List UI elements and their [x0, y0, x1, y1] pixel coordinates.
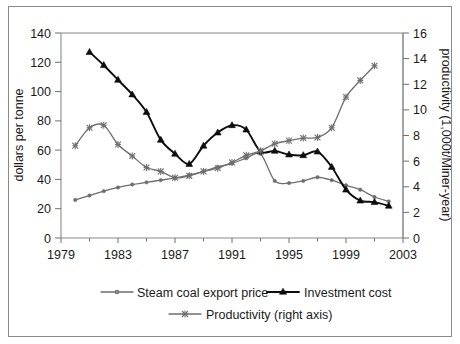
legend-label-steam-coal-export-price: Steam coal export price: [137, 286, 268, 300]
right-tick-label-4: 4: [413, 180, 420, 194]
left-tick-label-140: 140: [30, 27, 51, 41]
data-point: [330, 178, 333, 181]
chart-frame: 0 20 40 60 80 100 120 140 dollars per to…: [8, 6, 452, 337]
data-point: [357, 77, 363, 84]
right-tick-label-14: 14: [413, 52, 427, 66]
left-tick-label-0: 0: [44, 232, 51, 246]
legend-item-investment-cost[interactable]: Investment cost: [267, 286, 392, 300]
right-tick-label-16: 16: [413, 27, 427, 41]
data-point: [287, 181, 290, 184]
left-tick-label-80: 80: [37, 114, 51, 128]
left-tick-label-40: 40: [37, 173, 51, 187]
chart-figure: 0 20 40 60 80 100 120 140 dollars per to…: [0, 0, 460, 344]
data-point: [359, 188, 362, 191]
left-tick-label-20: 20: [37, 202, 51, 216]
data-point: [316, 176, 319, 179]
data-point: [86, 48, 93, 54]
data-point: [115, 141, 121, 148]
chart-legend: Steam coal export price Investment cost: [101, 286, 392, 322]
data-point: [144, 164, 150, 171]
data-point: [258, 147, 264, 154]
data-point: [300, 135, 306, 142]
data-point: [229, 159, 235, 166]
x-tick-label-1987: 1987: [161, 248, 189, 262]
left-tick-label-100: 100: [30, 85, 51, 99]
data-point: [116, 186, 119, 189]
legend-label-investment-cost: Investment cost: [304, 286, 392, 300]
data-point: [302, 179, 305, 182]
right-tick-label-8: 8: [413, 129, 420, 143]
x-tick-label-1991: 1991: [218, 248, 246, 262]
data-point: [172, 174, 178, 181]
x-tick-label-1979: 1979: [47, 248, 75, 262]
right-tick-label-10: 10: [413, 103, 427, 117]
data-point: [101, 122, 107, 129]
star-icon: [182, 311, 188, 318]
right-axis-title: productivity (1,000t/Miner-year): [439, 49, 451, 222]
data-point: [87, 124, 93, 131]
data-point: [372, 62, 378, 69]
data-point: [215, 165, 221, 172]
data-point: [273, 179, 276, 182]
data-series-layer: [72, 48, 392, 208]
data-point: [74, 198, 77, 201]
data-point: [243, 152, 249, 159]
data-point: [102, 189, 105, 192]
legend-item-productivity[interactable]: Productivity (right axis): [169, 308, 332, 322]
data-point: [343, 94, 349, 101]
line-chart-canvas: 0 20 40 60 80 100 120 140 dollars per to…: [9, 7, 451, 336]
data-point: [145, 181, 148, 184]
x-tick-label-1995: 1995: [275, 248, 303, 262]
left-axis-title: dollars per tonne: [12, 88, 26, 181]
right-tick-label-2: 2: [413, 206, 420, 220]
legend-label-productivity: Productivity (right axis): [206, 308, 332, 322]
data-point: [131, 183, 134, 186]
data-point: [159, 178, 162, 181]
data-point: [129, 153, 135, 160]
data-point: [201, 168, 207, 175]
right-tick-label-0: 0: [413, 232, 420, 246]
left-tick-label-60: 60: [37, 144, 51, 158]
data-point: [72, 142, 78, 149]
left-axis-ticks: 0 20 40 60 80 100 120 140: [30, 27, 61, 246]
right-tick-label-6: 6: [413, 155, 420, 169]
left-tick-label-120: 120: [30, 56, 51, 70]
data-point: [286, 137, 292, 144]
data-point: [88, 194, 91, 197]
data-point: [158, 168, 164, 175]
data-point: [315, 134, 321, 141]
x-tick-label-2003: 2003: [389, 248, 417, 262]
x-tick-label-1983: 1983: [104, 248, 132, 262]
bottom-axis-ticks: 1979 1983 1987 1991 1995 1999 2003: [47, 238, 417, 262]
series-line: [90, 52, 389, 206]
data-point: [272, 140, 278, 147]
data-point: [186, 172, 192, 179]
right-axis-ticks: 0 2 4 6 8 10 12 14 16: [403, 27, 427, 246]
x-tick-label-1999: 1999: [332, 248, 360, 262]
legend-item-steam-coal-export-price[interactable]: Steam coal export price: [101, 286, 268, 300]
right-tick-label-12: 12: [413, 78, 427, 92]
data-point: [329, 124, 335, 131]
